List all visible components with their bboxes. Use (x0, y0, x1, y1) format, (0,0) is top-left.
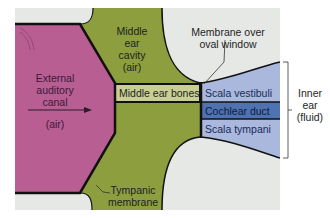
middle-ear-bones-label: Middle ear bones (119, 87, 200, 99)
external-canal-label: External auditory canal (34, 72, 76, 108)
label-line: Tympanic (107, 184, 159, 196)
label-line: auditory (34, 84, 76, 96)
label-line: Middle (112, 25, 152, 37)
membrane-oval-window-label: Membrane over oval window (188, 26, 268, 50)
external-air-label: (air) (34, 118, 76, 130)
label-line: canal (34, 96, 76, 108)
label-line: membrane (107, 196, 159, 208)
label-line: (air) (112, 61, 152, 73)
bottom-left-bone-region (15, 193, 92, 210)
label-line: Membrane over (188, 26, 268, 38)
label-line: External (34, 72, 76, 84)
inner-ear-bracket (283, 62, 288, 158)
middle-ear-cavity-label: Middle ear cavity (air) (112, 25, 152, 73)
ear-diagram (0, 0, 330, 218)
scala-vestibuli-label: Scala vestibuli (205, 87, 272, 99)
cochlear-duct-label: Cochlear duct (205, 105, 270, 117)
label-line: ear (112, 37, 152, 49)
label-line: Inner (292, 87, 328, 99)
tympanic-membrane-label: Tympanic membrane (107, 184, 159, 208)
inner-ear-label: Inner ear (fluid) (292, 87, 328, 123)
scala-tympani-label: Scala tympani (205, 123, 271, 135)
top-left-bone-region (15, 8, 93, 24)
label-line: ear (292, 99, 328, 111)
label-line: oval window (188, 38, 268, 50)
label-line: (fluid) (292, 111, 328, 123)
label-line: cavity (112, 49, 152, 61)
